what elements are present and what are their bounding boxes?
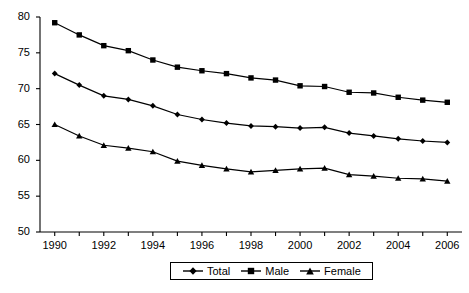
plot-area: 5055606570758019901992199419961998200020…	[0, 0, 469, 248]
data-point-male	[175, 64, 180, 69]
data-point-total	[371, 133, 377, 139]
x-tick-label: 2004	[378, 240, 418, 251]
data-point-total	[420, 138, 426, 144]
x-tick-label: 2002	[329, 240, 369, 251]
data-point-male	[224, 71, 229, 76]
data-point-male	[322, 84, 327, 89]
x-tick-label: 1998	[231, 240, 271, 251]
data-point-male	[445, 100, 450, 105]
data-point-male	[273, 77, 278, 82]
data-point-total	[273, 124, 279, 130]
y-tick-label: 55	[6, 190, 30, 201]
data-point-total	[322, 124, 328, 130]
x-tick-label: 1990	[35, 240, 75, 251]
data-point-male	[199, 68, 204, 73]
y-tick-label: 65	[6, 119, 30, 130]
data-point-total	[125, 96, 131, 102]
legend-item-female[interactable]: Female	[299, 265, 361, 277]
data-point-total	[150, 103, 156, 109]
data-point-male	[371, 90, 376, 95]
legend-label-male: Male	[265, 265, 289, 277]
data-point-female	[76, 133, 82, 139]
legend-item-total[interactable]: Total	[182, 265, 230, 277]
y-tick-label: 50	[6, 226, 30, 237]
diamond-marker-icon	[182, 265, 204, 277]
data-point-male	[101, 43, 106, 48]
data-point-male	[248, 75, 253, 80]
data-point-total	[346, 130, 352, 136]
data-point-total	[444, 139, 450, 145]
data-point-male	[150, 57, 155, 62]
x-tick-label: 1992	[84, 240, 124, 251]
data-point-total	[395, 136, 401, 142]
triangle-marker-icon	[299, 265, 321, 277]
data-point-female	[52, 121, 58, 127]
y-tick-label: 70	[6, 83, 30, 94]
legend-label-total: Total	[207, 265, 230, 277]
series-line-male	[55, 23, 448, 103]
data-point-male	[396, 95, 401, 100]
x-tick-label: 1994	[133, 240, 173, 251]
square-marker-icon	[240, 265, 262, 277]
legend-item-male[interactable]: Male	[240, 265, 289, 277]
data-point-total	[224, 120, 230, 126]
legend-label-female: Female	[324, 265, 361, 277]
series-line-total	[55, 74, 448, 143]
y-tick-label: 75	[6, 47, 30, 58]
data-point-total	[175, 111, 181, 117]
data-point-male	[420, 97, 425, 102]
x-tick-label: 2000	[280, 240, 320, 251]
chart-legend: Total Male Female	[170, 262, 373, 280]
data-point-total	[76, 82, 82, 88]
data-point-male	[346, 90, 351, 95]
data-point-total	[297, 125, 303, 131]
data-point-male	[297, 83, 302, 88]
line-chart-svg	[0, 0, 469, 248]
x-tick-label: 2006	[427, 240, 467, 251]
y-tick-label: 60	[6, 154, 30, 165]
data-point-total	[101, 93, 107, 99]
data-point-total	[248, 123, 254, 129]
data-point-male	[126, 48, 131, 53]
data-point-male	[52, 20, 57, 25]
data-point-total	[52, 71, 58, 77]
data-point-total	[199, 116, 205, 122]
x-tick-label: 1996	[182, 240, 222, 251]
data-point-male	[77, 32, 82, 37]
chart-figure: 5055606570758019901992199419961998200020…	[0, 0, 469, 293]
y-tick-label: 80	[6, 11, 30, 22]
